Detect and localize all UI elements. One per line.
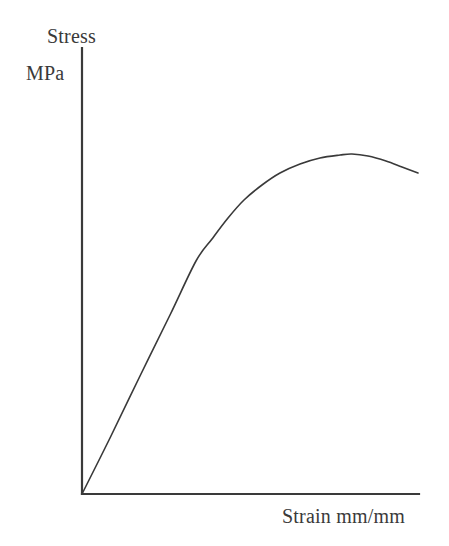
x-axis-title-label: Strain mm/mm [282, 505, 405, 528]
stress-strain-curve [82, 154, 418, 494]
y-axis-title-label: Stress [47, 25, 96, 48]
plot-canvas [0, 0, 449, 546]
y-axis-units-label: MPa [26, 62, 64, 85]
stress-strain-figure: Stress MPa Strain mm/mm [0, 0, 449, 546]
